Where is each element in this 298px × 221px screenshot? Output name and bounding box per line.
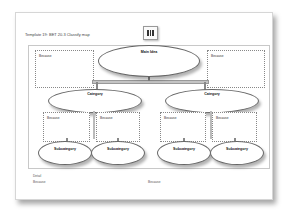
subcategory-label: Subcategory [211, 147, 263, 151]
category-label: Category [49, 92, 141, 96]
detail-label: Detail [33, 174, 41, 178]
category-ellipse-left: Category [48, 89, 142, 113]
because-label: Because [211, 54, 223, 58]
subcategory-label: Subcategory [158, 147, 210, 151]
subcategory-label: Subcategory [92, 147, 144, 151]
category-ellipse-right: Category [165, 89, 259, 113]
because-label: Because [216, 116, 228, 120]
because-label-left: Because [33, 180, 45, 184]
subcategory-ellipse: Subcategory [210, 141, 264, 165]
because-label: Because [164, 116, 176, 120]
main-idea-ellipse: Main Idea [98, 45, 200, 77]
because-box-top-right: Because [207, 50, 265, 88]
document-title: Template 19: BET 20.3 Classify map [25, 32, 90, 37]
because-label-right: Because [148, 180, 160, 184]
main-idea-label: Main Idea [99, 50, 199, 54]
connector-line [93, 111, 95, 139]
subcategory-label: Subcategory [39, 147, 91, 151]
because-label: Because [100, 116, 112, 120]
because-label: Because [47, 116, 59, 120]
because-box-top-left: Because [35, 50, 94, 88]
because-label: Because [39, 54, 51, 58]
graphic-organizer-icon [143, 26, 158, 40]
subcategory-ellipse: Subcategory [157, 141, 211, 165]
category-label: Category [166, 92, 258, 96]
connector-bar [92, 80, 209, 84]
subcategory-ellipse: Subcategory [91, 141, 145, 165]
subcategory-ellipse: Subcategory [38, 141, 92, 165]
